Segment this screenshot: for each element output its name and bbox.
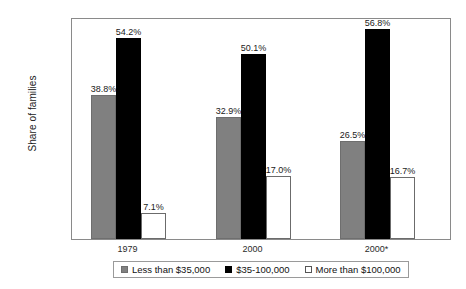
bar-chart: Share of families 0.0%10.0%20.0%30.0%40.… [0,0,466,289]
bar [241,54,266,239]
bar [390,177,415,239]
legend-item-label: Less than $35,000 [132,264,210,275]
bar-value-label: 17.0% [266,165,292,175]
bar [141,213,166,239]
x-axis-tick-label: 1979 [117,244,137,254]
bar [216,117,241,239]
bar-value-label: 56.8% [365,18,391,28]
bar-value-label: 26.5% [340,130,366,140]
x-axis-tick-label: 2000* [365,244,389,254]
legend-item-label: More than $100,000 [316,264,401,275]
bar-value-label: 50.1% [241,43,267,53]
bar-value-label: 32.9% [216,106,242,116]
bar [365,29,390,239]
bar [116,38,141,239]
plot-area: 38.8%54.2%7.1%32.9%50.1%17.0%26.5%56.8%1… [71,18,451,240]
y-axis-title: Share of families [27,34,38,194]
bar [266,176,291,239]
legend-item-label: $35-100,000 [236,264,289,275]
legend-swatch-icon [121,266,128,273]
bar-value-label: 16.7% [390,166,416,176]
bar [340,141,365,239]
x-axis-tick-label: 2000 [242,244,262,254]
bar-group: 32.9%50.1%17.0% [216,19,291,239]
legend-swatch-icon [305,266,312,273]
bar-value-label: 38.8% [91,84,117,94]
legend-item[interactable]: $35-100,000 [225,264,289,275]
bar-group: 26.5%56.8%16.7% [340,19,415,239]
bar-value-label: 7.1% [143,202,164,212]
legend-item[interactable]: More than $100,000 [305,264,401,275]
bar-value-label: 54.2% [116,27,142,37]
legend-swatch-icon [225,266,232,273]
bar-group: 38.8%54.2%7.1% [91,19,166,239]
legend-item[interactable]: Less than $35,000 [121,264,210,275]
bar [91,95,116,239]
chart-legend: Less than $35,000$35-100,000More than $1… [113,261,409,278]
